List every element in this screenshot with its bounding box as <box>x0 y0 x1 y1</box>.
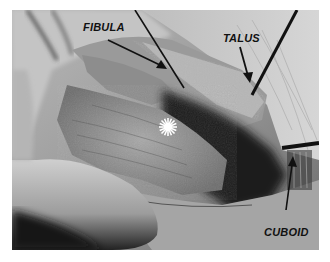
surgical-photo: FIBULA TALUS CUBOID <box>12 10 319 250</box>
fibula-label: FIBULA <box>83 21 125 33</box>
talus-label: TALUS <box>223 32 260 44</box>
asterisk-marker-icon <box>159 118 177 136</box>
photo-scene <box>12 10 319 250</box>
cuboid-label: CUBOID <box>264 226 309 238</box>
